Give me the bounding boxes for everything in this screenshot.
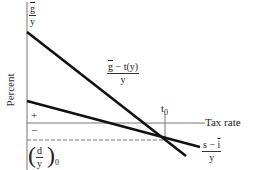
y-intercept-numerator: g [29,4,36,16]
government-deficit-denominator: y [121,74,126,85]
deficit-ratio-denominator: y [37,158,42,169]
deficit-ratio-subscript: 0 [55,158,59,167]
x-axis-label: Tax rate [205,117,241,128]
government-deficit-label: g − t(y) y [107,62,139,85]
savings-investment-denominator: y [209,152,214,163]
negative-marker: − [31,125,37,136]
deficit-ratio-numerator: d [36,146,43,158]
y-intercept-label: g y [29,4,36,27]
y-axis-label: Percent [4,74,16,107]
savings-investment-label: s − i y [202,140,221,163]
government-deficit-numerator: g − t(y) [107,62,139,74]
positive-marker: + [31,110,37,121]
t0-label: t0 [161,103,168,117]
savings-investment-numerator: s − i [202,140,221,152]
y-intercept-denominator: y [30,16,35,27]
